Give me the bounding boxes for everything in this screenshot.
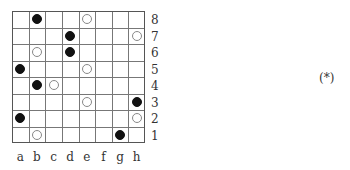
file-label-h: h — [133, 151, 141, 163]
diagram-tag-label: (*) — [319, 71, 334, 85]
black-stone-g1 — [115, 130, 125, 140]
white-stone-b6 — [32, 47, 42, 57]
black-stone-a2 — [15, 113, 25, 123]
rank-label-6: 6 — [151, 47, 159, 59]
file-label-a: a — [17, 151, 24, 163]
white-stone-c4 — [49, 80, 59, 90]
grid-line-horizontal — [13, 61, 144, 62]
rank-label-5: 5 — [151, 64, 159, 76]
white-stone-h2 — [132, 113, 142, 123]
black-stone-b4 — [32, 80, 42, 90]
file-label-d: d — [66, 151, 74, 163]
black-stone-a5 — [15, 64, 25, 74]
white-stone-b1 — [32, 130, 42, 140]
grid-line-horizontal — [13, 77, 144, 78]
file-label-f: f — [101, 151, 105, 163]
black-stone-d7 — [65, 31, 75, 41]
rank-label-3: 3 — [151, 97, 159, 109]
grid-line-horizontal — [13, 44, 144, 45]
rank-label-4: 4 — [151, 80, 159, 92]
white-stone-e3 — [82, 97, 92, 107]
black-stone-d6 — [65, 47, 75, 57]
rank-label-7: 7 — [151, 31, 159, 43]
rank-label-1: 1 — [151, 130, 159, 142]
grid-line-horizontal — [13, 110, 144, 111]
file-label-b: b — [33, 151, 41, 163]
file-label-e: e — [83, 151, 90, 163]
file-label-c: c — [50, 151, 57, 163]
grid-line-horizontal — [13, 127, 144, 128]
file-label-g: g — [116, 151, 124, 163]
black-stone-b8 — [32, 14, 42, 24]
grid-line-horizontal — [13, 94, 144, 95]
game-board — [12, 11, 145, 143]
rank-label-8: 8 — [151, 14, 159, 26]
white-stone-h7 — [132, 31, 142, 41]
grid-line-horizontal — [13, 28, 144, 29]
rank-label-2: 2 — [151, 113, 159, 125]
white-stone-e8 — [82, 14, 92, 24]
white-stone-e5 — [82, 64, 92, 74]
black-stone-h3 — [132, 97, 142, 107]
